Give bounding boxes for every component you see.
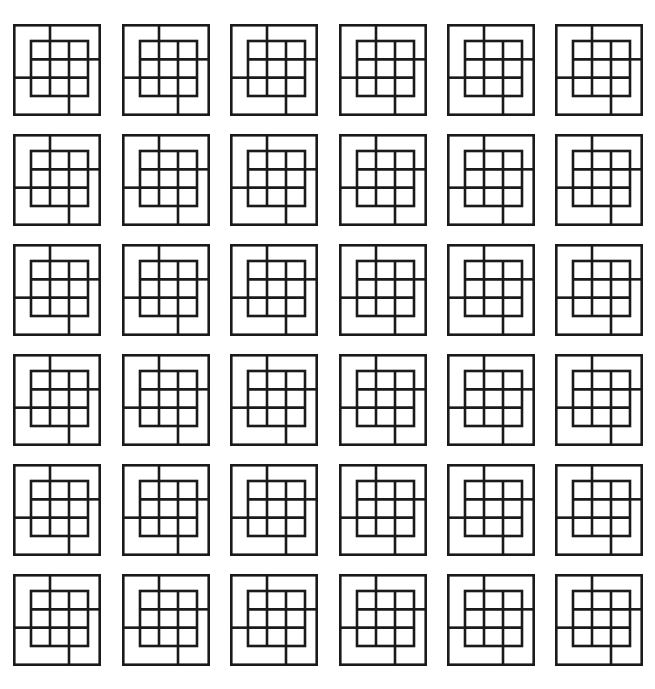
motif-tile: [122, 24, 210, 116]
inner-grid-border: [357, 41, 414, 96]
motif-glyph: [339, 24, 427, 116]
inner-grid-border: [573, 261, 630, 316]
inner-3x3-grid: [573, 261, 630, 316]
inner-grid-border: [140, 371, 197, 426]
inner-3x3-grid: [357, 261, 414, 316]
inner-grid-border: [31, 371, 88, 426]
motif-tile: [555, 24, 643, 116]
motif-glyph: [555, 354, 643, 446]
motif-tile: [230, 464, 318, 556]
motif-glyph: [230, 24, 318, 116]
inner-3x3-grid: [140, 591, 197, 646]
inner-grid-border: [465, 41, 522, 96]
motif-glyph: [339, 244, 427, 336]
inner-grid-border: [248, 151, 305, 206]
pattern-canvas: [0, 0, 655, 689]
motif-tile: [339, 244, 427, 336]
inner-3x3-grid: [31, 481, 88, 536]
motif-tile: [555, 574, 643, 666]
motif-tile: [555, 134, 643, 226]
motif-tile: [339, 464, 427, 556]
inner-3x3-grid: [140, 371, 197, 426]
inner-grid-border: [140, 591, 197, 646]
inner-grid-border: [465, 591, 522, 646]
inner-grid-border: [31, 151, 88, 206]
inner-3x3-grid: [357, 151, 414, 206]
motif-tile: [122, 574, 210, 666]
inner-grid-border: [248, 371, 305, 426]
motif-glyph: [555, 244, 643, 336]
inner-3x3-grid: [573, 371, 630, 426]
motif-glyph: [447, 574, 535, 666]
motif-tile: [13, 354, 101, 446]
motif-glyph: [230, 244, 318, 336]
motif-glyph: [447, 24, 535, 116]
motif-glyph: [447, 464, 535, 556]
motif-tile: [230, 354, 318, 446]
inner-grid-border: [357, 151, 414, 206]
inner-3x3-grid: [573, 151, 630, 206]
inner-3x3-grid: [465, 591, 522, 646]
motif-glyph: [122, 24, 210, 116]
motif-glyph: [339, 574, 427, 666]
inner-3x3-grid: [465, 151, 522, 206]
motif-glyph: [555, 574, 643, 666]
motif-glyph: [230, 134, 318, 226]
motif-glyph: [122, 354, 210, 446]
motif-glyph: [447, 244, 535, 336]
motif-tile: [13, 574, 101, 666]
motif-tile: [447, 354, 535, 446]
inner-3x3-grid: [248, 261, 305, 316]
inner-grid-border: [573, 481, 630, 536]
motif-glyph: [555, 464, 643, 556]
inner-3x3-grid: [31, 261, 88, 316]
motif-tile: [13, 244, 101, 336]
inner-grid-border: [573, 151, 630, 206]
inner-grid-border: [140, 261, 197, 316]
inner-grid-border: [357, 371, 414, 426]
motif-tile: [13, 24, 101, 116]
inner-grid-border: [465, 151, 522, 206]
inner-3x3-grid: [357, 41, 414, 96]
inner-3x3-grid: [248, 591, 305, 646]
inner-grid-border: [357, 261, 414, 316]
inner-grid-border: [31, 481, 88, 536]
inner-3x3-grid: [248, 371, 305, 426]
inner-3x3-grid: [465, 41, 522, 96]
inner-grid-border: [31, 41, 88, 96]
motif-tile: [122, 134, 210, 226]
motif-glyph: [13, 574, 101, 666]
motif-tile: [447, 464, 535, 556]
motif-glyph: [447, 354, 535, 446]
motif-tile: [122, 354, 210, 446]
motif-tile: [230, 24, 318, 116]
inner-grid-border: [140, 481, 197, 536]
inner-3x3-grid: [465, 481, 522, 536]
motif-tile: [447, 134, 535, 226]
motif-glyph: [13, 354, 101, 446]
inner-grid-border: [140, 41, 197, 96]
inner-grid-border: [465, 261, 522, 316]
motif-glyph: [339, 134, 427, 226]
inner-grid-border: [465, 481, 522, 536]
motif-glyph: [122, 464, 210, 556]
inner-3x3-grid: [465, 261, 522, 316]
inner-3x3-grid: [248, 41, 305, 96]
inner-grid-border: [31, 591, 88, 646]
inner-3x3-grid: [573, 41, 630, 96]
motif-tile: [447, 574, 535, 666]
motif-glyph: [230, 574, 318, 666]
motif-tile: [230, 244, 318, 336]
inner-3x3-grid: [31, 41, 88, 96]
motif-tile: [230, 574, 318, 666]
motif-glyph: [555, 24, 643, 116]
motif-tile: [555, 244, 643, 336]
motif-glyph: [13, 464, 101, 556]
motif-tile: [339, 354, 427, 446]
inner-3x3-grid: [573, 481, 630, 536]
motif-glyph: [13, 24, 101, 116]
motif-glyph: [447, 134, 535, 226]
inner-grid-border: [248, 261, 305, 316]
inner-3x3-grid: [140, 261, 197, 316]
inner-grid-border: [248, 591, 305, 646]
